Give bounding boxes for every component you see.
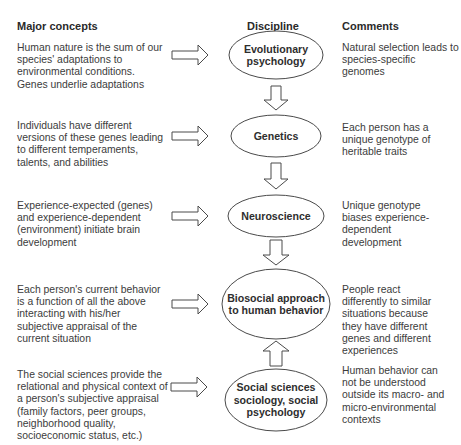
discipline-genetics: Genetics bbox=[232, 126, 320, 146]
right-arrow-icon-3 bbox=[172, 206, 208, 226]
concept-text-1: Human nature is the sum of our species' … bbox=[17, 42, 167, 91]
comment-text-3: Unique genotype biases experience-depend… bbox=[342, 200, 432, 249]
right-arrow-icon-5 bbox=[171, 377, 207, 397]
up-arrow-icon bbox=[263, 341, 289, 366]
right-arrow-icon-2 bbox=[172, 126, 208, 146]
discipline-evolutionary-psychology: Evolutionary psychology bbox=[232, 38, 320, 72]
comment-text-1: Natural selection leads to species-speci… bbox=[342, 42, 460, 79]
right-arrow-icon-1 bbox=[172, 45, 208, 65]
down-arrow-icon-3 bbox=[263, 240, 289, 265]
concept-text-5: The social sciences provide the relation… bbox=[17, 369, 169, 442]
discipline-social-sciences: Social sciences sociology, social psycho… bbox=[229, 380, 323, 420]
concept-text-2: Individuals have different versions of t… bbox=[17, 120, 167, 169]
comment-text-4: People react differently to similar situ… bbox=[342, 284, 442, 357]
comment-text-5: Human behavior can not be understood out… bbox=[342, 365, 452, 426]
discipline-biosocial: Biosocial approach to human behavior bbox=[226, 284, 326, 324]
discipline-neuroscience: Neuroscience bbox=[230, 206, 322, 226]
concept-text-4: Each person's current behavior is a func… bbox=[17, 284, 167, 345]
right-arrow-icon-4 bbox=[172, 294, 208, 314]
comment-text-2: Each person has a unique genotype of her… bbox=[342, 122, 438, 159]
down-arrow-icon-2 bbox=[264, 163, 288, 189]
down-arrow-icon-1 bbox=[264, 86, 288, 110]
concept-text-3: Experience-expected (genes) and experien… bbox=[17, 200, 167, 249]
